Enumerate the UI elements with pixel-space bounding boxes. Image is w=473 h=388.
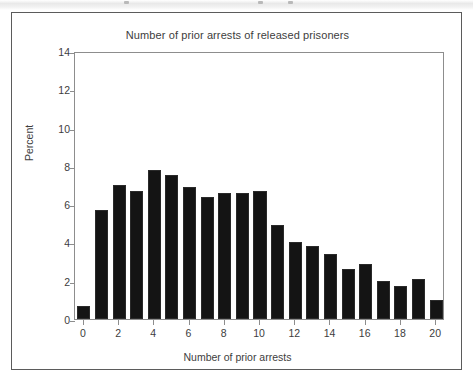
- x-axis-ticks: [74, 320, 444, 325]
- x-tick-0: [83, 320, 84, 325]
- bar-16: [359, 264, 372, 320]
- x-tick-18: [400, 320, 401, 325]
- y-tick-label-14: 14: [30, 46, 70, 58]
- bar-17: [377, 281, 390, 319]
- x-tick-label-20: 20: [415, 327, 455, 339]
- scan-artifact-mark: [258, 1, 263, 4]
- bar-15: [342, 269, 355, 319]
- bar-1: [95, 210, 108, 319]
- x-tick-12: [294, 320, 295, 325]
- x-tick-label-12: 12: [274, 327, 314, 339]
- bar-12: [289, 242, 302, 319]
- x-axis-title: Number of prior arrests: [12, 351, 463, 363]
- figure-container: Number of prior arrests of released pris…: [11, 12, 462, 370]
- bar-6: [183, 187, 196, 319]
- x-tick-2: [118, 320, 119, 325]
- x-tick-8: [224, 320, 225, 325]
- x-tick-10: [259, 320, 260, 325]
- scan-artifact-mark: [288, 1, 293, 4]
- bar-19: [412, 279, 425, 319]
- bar-20: [430, 300, 443, 319]
- bar-7: [201, 197, 214, 320]
- bar-14: [324, 254, 337, 319]
- scanned-page-edge-strip: [0, 0, 473, 10]
- y-tick-label-8: 8: [30, 161, 70, 173]
- scan-artifact-mark: [124, 1, 129, 4]
- x-tick-label-0: 0: [63, 327, 103, 339]
- x-tick-20: [435, 320, 436, 325]
- bar-3: [130, 191, 143, 319]
- bar-13: [306, 246, 319, 319]
- y-tick-label-6: 6: [30, 199, 70, 211]
- y-tick-label-4: 4: [30, 237, 70, 249]
- y-axis-tick-labels: 02468101214: [24, 52, 70, 320]
- bar-4: [148, 170, 161, 319]
- x-tick-label-10: 10: [239, 327, 279, 339]
- x-tick-label-18: 18: [380, 327, 420, 339]
- x-tick-label-2: 2: [98, 327, 138, 339]
- bar-18: [394, 286, 407, 319]
- bar-5: [165, 175, 178, 319]
- bar-11: [271, 225, 284, 319]
- x-tick-label-6: 6: [169, 327, 209, 339]
- y-tick-label-12: 12: [30, 84, 70, 96]
- bar-10: [253, 191, 266, 319]
- y-tick-label-0: 0: [30, 314, 70, 326]
- bar-9: [236, 193, 249, 319]
- bar-2: [113, 185, 126, 319]
- x-tick-6: [189, 320, 190, 325]
- x-tick-label-16: 16: [345, 327, 385, 339]
- plot-area: [74, 52, 444, 320]
- bar-8: [218, 193, 231, 319]
- y-tick-label-10: 10: [30, 123, 70, 135]
- chart-title: Number of prior arrests of released pris…: [12, 29, 463, 41]
- x-tick-4: [153, 320, 154, 325]
- x-tick-14: [329, 320, 330, 325]
- x-tick-label-4: 4: [133, 327, 173, 339]
- bar-0: [77, 306, 90, 319]
- bar-series: [75, 53, 443, 319]
- y-tick-label-2: 2: [30, 276, 70, 288]
- x-tick-16: [365, 320, 366, 325]
- x-tick-label-14: 14: [309, 327, 349, 339]
- x-axis-tick-labels: 02468101214161820: [74, 327, 444, 343]
- x-tick-label-8: 8: [204, 327, 244, 339]
